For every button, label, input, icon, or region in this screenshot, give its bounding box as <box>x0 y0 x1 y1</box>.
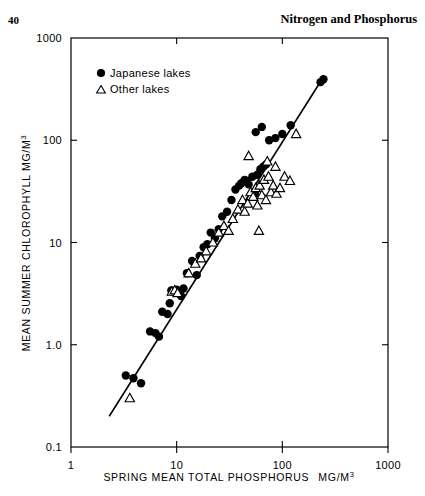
svg-text:MEAN SUMMER CHLOROPHYLL MG/M3: MEAN SUMMER CHLOROPHYLL MG/M3 <box>19 135 32 352</box>
x-tick-label-10: 10 <box>170 459 183 471</box>
x-tick-label-1: 1 <box>68 459 74 471</box>
chart-figure: 1101001000 0.11.0101001000 Japanese lake… <box>0 0 425 496</box>
data-point-other-lake <box>253 201 262 209</box>
y-axis-title: MEAN SUMMER CHLOROPHYLL MG/M3 <box>19 135 32 352</box>
data-point-japanese-lake <box>179 284 187 292</box>
data-point-other-lake <box>264 172 273 180</box>
data-point-other-lake <box>254 226 263 234</box>
x-axis-title-exponent: 3 <box>350 470 355 479</box>
data-point-japanese-lake <box>155 332 163 340</box>
data-point-japanese-lake <box>122 371 130 379</box>
data-point-japanese-lake <box>227 196 235 204</box>
data-point-japanese-lake <box>137 379 145 387</box>
x-axis-title: SPRING MEAN TOTAL PHOSPHORUSMG/M3 <box>103 470 354 483</box>
data-point-japanese-lake <box>278 130 286 138</box>
legend-marker-open-triangle <box>97 86 106 94</box>
scatter-plot: 1101001000 0.11.0101001000 Japanese lake… <box>0 0 425 496</box>
axis-ticks <box>71 38 388 453</box>
series-japanese-lakes <box>122 75 328 387</box>
data-point-japanese-lake <box>223 208 231 216</box>
y-tick-label-100: 100 <box>43 134 62 146</box>
y-tick-label-1000: 1000 <box>36 32 62 44</box>
x-axis-title-units: MG/M <box>318 471 349 483</box>
y-tick-label-1.0: 1.0 <box>46 339 62 351</box>
y-axis-title-main: MEAN SUMMER CHLOROPHYLL MG/M <box>20 140 32 352</box>
series-other-lakes <box>125 129 301 402</box>
data-point-japanese-lake <box>166 299 174 307</box>
chart-legend: Japanese lakes Other lakes <box>97 67 191 95</box>
legend-label-other-lakes: Other lakes <box>110 83 170 95</box>
data-point-japanese-lake <box>258 123 266 131</box>
plot-frame <box>71 38 388 447</box>
legend-label-japanese-lakes: Japanese lakes <box>110 67 191 79</box>
x-tick-label-1000: 1000 <box>375 459 401 471</box>
data-point-other-lake <box>271 162 280 170</box>
data-point-other-lake <box>291 129 300 137</box>
data-point-japanese-lake <box>163 310 171 318</box>
y-tick-label-0.1: 0.1 <box>46 441 62 453</box>
data-point-japanese-lake <box>287 121 295 129</box>
x-tick-label-100: 100 <box>273 459 292 471</box>
data-point-japanese-lake <box>319 75 327 83</box>
y-tick-labels: 0.11.0101001000 <box>36 32 62 453</box>
legend-marker-filled-circle <box>97 69 105 77</box>
y-tick-label-10: 10 <box>49 237 62 249</box>
data-point-other-lake <box>244 151 253 159</box>
svg-text:SPRING MEAN TOTAL PHOSPHORUSMG: SPRING MEAN TOTAL PHOSPHORUSMG/M3 <box>103 470 354 483</box>
data-point-japanese-lake <box>244 180 252 188</box>
data-point-japanese-lake <box>193 271 201 279</box>
data-point-other-lake <box>125 393 134 401</box>
data-point-japanese-lake <box>129 374 137 382</box>
y-axis-title-exponent: 3 <box>19 135 28 140</box>
x-axis-title-main: SPRING MEAN TOTAL PHOSPHORUS <box>103 471 309 483</box>
